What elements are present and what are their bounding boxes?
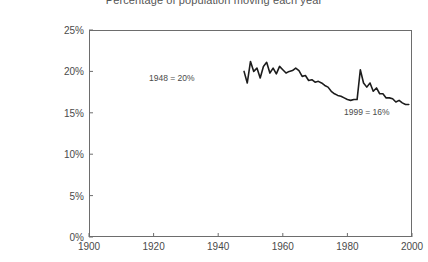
x-axis-ticks (89, 233, 412, 237)
x-tick-label: 2000 (388, 241, 428, 252)
data-series-line (244, 61, 409, 104)
chart-container: Percentage of population moving each yea… (0, 0, 428, 262)
x-tick-label: 1960 (259, 241, 307, 252)
y-tick-label: 10% (50, 149, 84, 160)
y-tick-label: 5% (50, 190, 84, 201)
x-tick-label: 1900 (65, 241, 113, 252)
y-tick-label: 25% (50, 25, 84, 36)
annotation-1999: 1999 = 16% (344, 107, 390, 117)
y-tick-label: 15% (50, 107, 84, 118)
x-tick-label: 1920 (130, 241, 178, 252)
x-tick-label: 1980 (323, 241, 371, 252)
annotation-1948: 1948 = 20% (149, 73, 195, 83)
plot-svg (89, 30, 412, 237)
y-axis-ticks (89, 30, 93, 237)
x-tick-label: 1940 (194, 241, 242, 252)
y-axis-labels: 0%5%10%15%20%25% (46, 0, 84, 262)
y-tick-label: 20% (50, 66, 84, 77)
